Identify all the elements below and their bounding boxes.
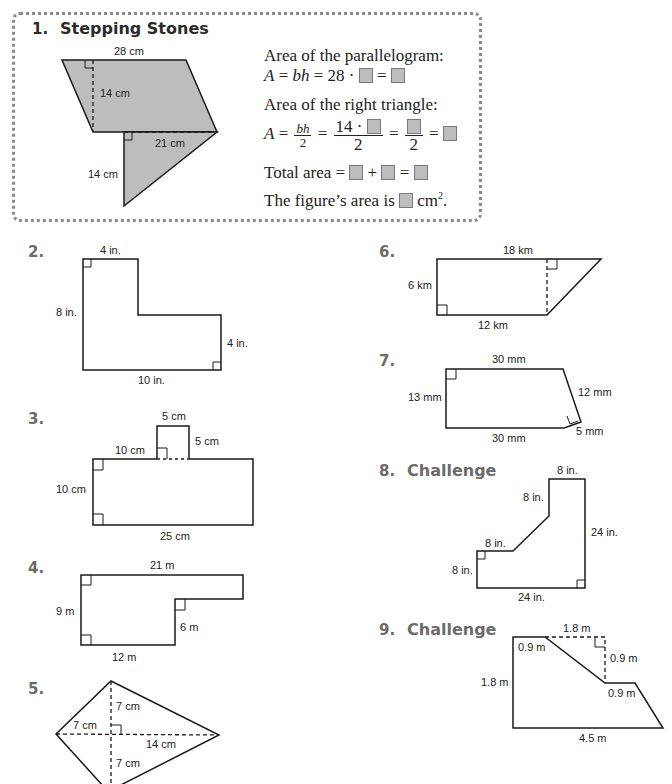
problem-9-figure: [0, 0, 672, 784]
p9-label-top-left: 0.9 m: [518, 641, 546, 653]
p9-label-bottom: 4.5 m: [579, 732, 607, 744]
p9-label-left: 1.8 m: [481, 676, 509, 688]
p9-label-drop: 0.9 m: [610, 652, 638, 664]
p9-label-ledge: 0.9 m: [608, 687, 636, 699]
p9-label-top: 1.8 m: [563, 622, 591, 634]
